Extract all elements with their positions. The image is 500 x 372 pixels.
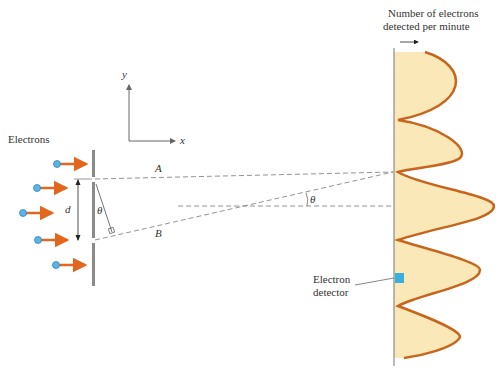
electron-beam bbox=[20, 161, 87, 269]
detector-label-line2: detector bbox=[313, 286, 348, 298]
electrons-label: Electrons bbox=[8, 133, 50, 145]
angle-label-screen: θ bbox=[310, 193, 315, 205]
axes-icon bbox=[129, 85, 175, 141]
fringe-fill bbox=[394, 52, 494, 358]
detector-label-line1: Electron bbox=[313, 273, 350, 285]
detector-leader-line bbox=[355, 278, 394, 285]
electron-detector-icon bbox=[395, 273, 404, 283]
electron-icon bbox=[35, 237, 68, 244]
slit-separation-label: d bbox=[65, 203, 71, 215]
path-a-label: A bbox=[155, 162, 162, 174]
graph-title-line2: detected per minute bbox=[383, 20, 470, 32]
angle-arc bbox=[306, 193, 308, 206]
angle-label-slits: θ bbox=[97, 204, 102, 216]
path-b-label: B bbox=[155, 227, 162, 239]
axis-x-label: x bbox=[180, 134, 185, 146]
double-slit-diagram bbox=[0, 0, 500, 372]
electron-icon bbox=[34, 185, 67, 192]
slit-barrier bbox=[92, 150, 95, 286]
axis-y-label: y bbox=[122, 68, 127, 80]
electron-icon bbox=[54, 161, 87, 168]
slit-separation-arrow bbox=[74, 179, 92, 241]
graph-title-line1: Number of electrons bbox=[388, 7, 478, 19]
electron-icon bbox=[20, 210, 53, 217]
electron-icon bbox=[53, 262, 86, 269]
ray-paths bbox=[95, 172, 393, 240]
